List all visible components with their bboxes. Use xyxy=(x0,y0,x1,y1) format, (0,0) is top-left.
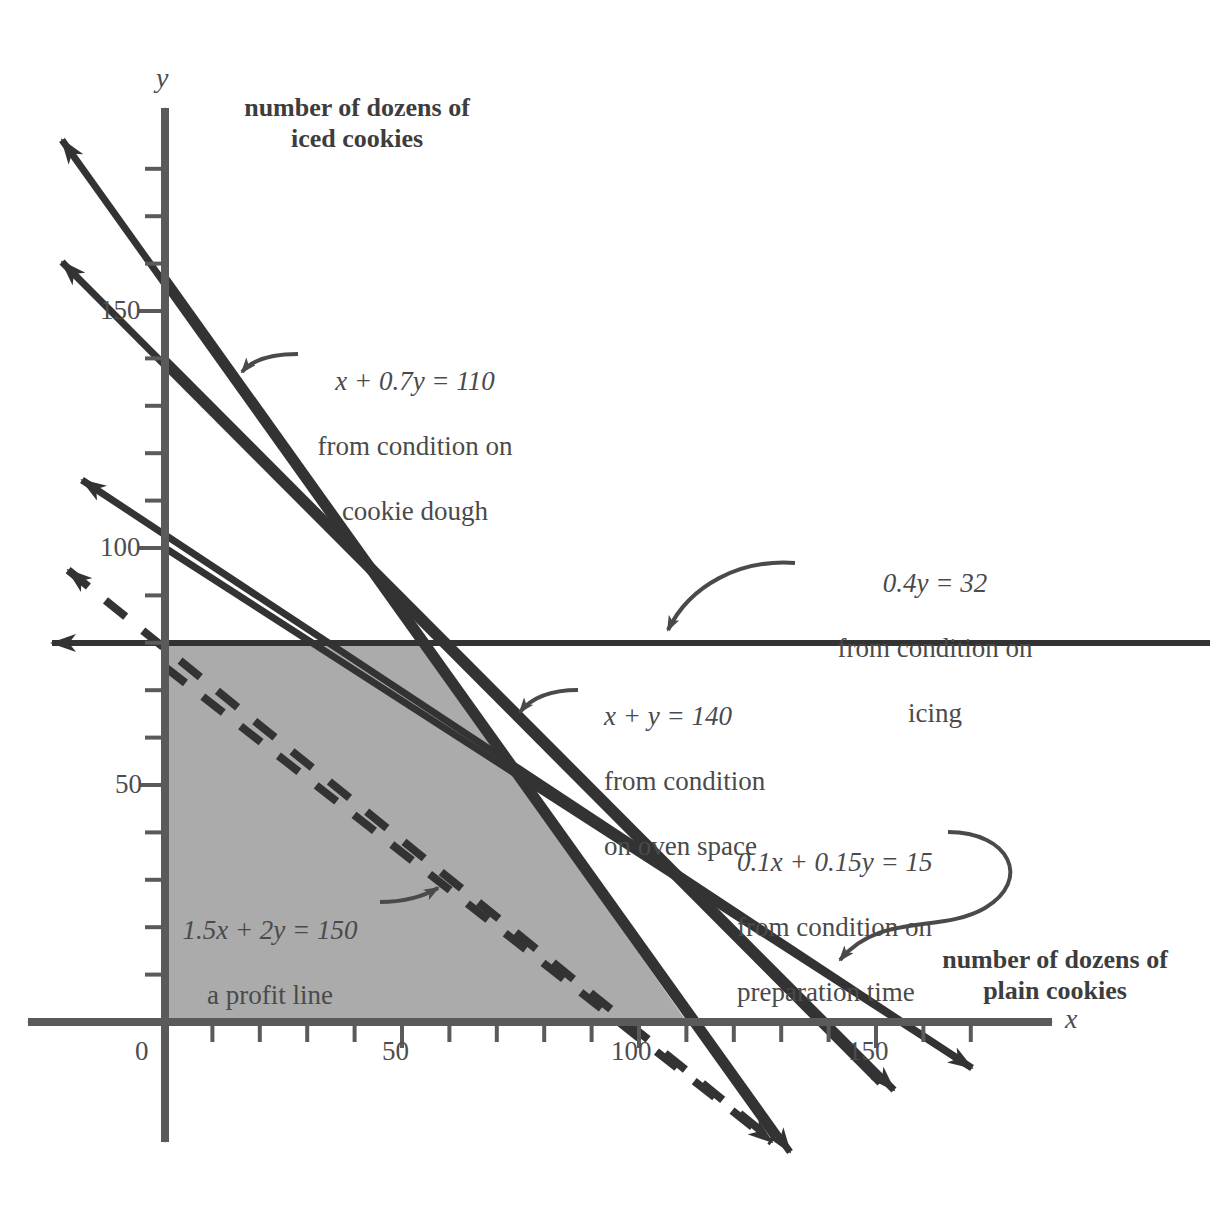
icing-annotation-leader xyxy=(668,563,795,630)
x-axis-variable-label: x xyxy=(1065,1003,1077,1035)
y-tick-label-100: 100 xyxy=(100,532,141,563)
annotation-preparation-time-line1: from condition on xyxy=(737,911,1037,943)
annotation-profit-line-equation: 1.5x + 2y = 150 xyxy=(160,914,380,946)
linear-programming-figure: y x number of dozens of iced cookies num… xyxy=(0,0,1224,1212)
annotation-cookie-dough-line1: from condition on xyxy=(290,430,540,462)
annotation-cookie-dough-equation: x + 0.7y = 110 xyxy=(290,365,540,397)
annotation-cookie-dough: x + 0.7y = 110 from condition on cookie … xyxy=(290,333,540,560)
annotation-icing-equation: 0.4y = 32 xyxy=(790,567,1080,599)
annotation-cookie-dough-line2: cookie dough xyxy=(290,495,540,527)
annotation-oven-space-equation: x + y = 140 xyxy=(604,700,884,732)
y-axis-title: number of dozens of iced cookies xyxy=(192,93,522,154)
annotation-preparation-time-equation: 0.1x + 0.15y = 15 xyxy=(737,846,1037,878)
x-tick-label-0: 0 xyxy=(135,1036,149,1067)
annotation-icing-line1: from condition on xyxy=(790,632,1080,664)
annotation-oven-space-line1: from condition xyxy=(604,765,884,797)
y-tick-label-50: 50 xyxy=(115,769,142,800)
y-axis-variable-label: y xyxy=(156,62,168,94)
annotation-preparation-time-line2: preparation time xyxy=(737,976,1037,1008)
oven-annotation-leader xyxy=(520,690,578,712)
annotation-profit-line-line1: a profit line xyxy=(160,979,380,1011)
x-tick-label-100: 100 xyxy=(611,1036,652,1067)
y-tick-label-150: 150 xyxy=(100,295,141,326)
x-tick-label-50: 50 xyxy=(382,1036,409,1067)
annotation-preparation-time: 0.1x + 0.15y = 15 from condition on prep… xyxy=(737,814,1037,1041)
annotation-profit-line: 1.5x + 2y = 150 a profit line xyxy=(160,882,380,1044)
